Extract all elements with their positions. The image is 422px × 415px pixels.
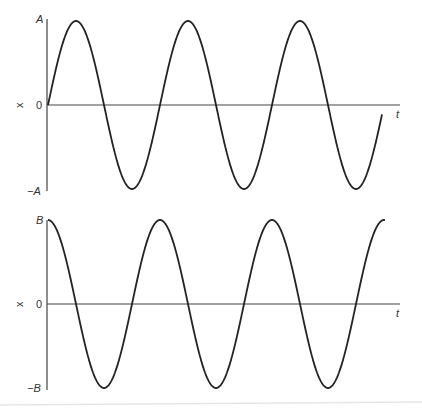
- bottom-ymin-label: −B: [27, 382, 41, 394]
- top-zero-label: 0: [36, 99, 42, 111]
- top-ylabel: x: [13, 102, 25, 108]
- waveform-diagram: A 0 −A t x B 0 −B t x: [0, 0, 422, 415]
- page-edge-divider: [0, 402, 422, 405]
- top-ymax-label: A: [35, 13, 43, 25]
- top-plot: A 0 −A t x: [13, 13, 400, 197]
- bottom-plot: B 0 −B t x: [13, 214, 400, 394]
- bottom-ymax-label: B: [36, 214, 43, 226]
- bottom-zero-label: 0: [36, 298, 42, 310]
- top-ymin-label: −A: [27, 185, 41, 197]
- bottom-ylabel: x: [13, 301, 25, 307]
- bottom-xlabel: t: [396, 307, 400, 319]
- top-xlabel: t: [396, 108, 400, 120]
